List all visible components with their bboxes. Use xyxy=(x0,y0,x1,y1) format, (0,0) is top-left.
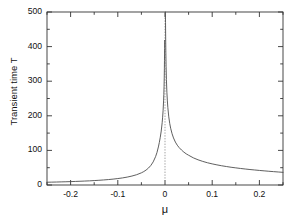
x-axis-label: μ xyxy=(17,203,297,215)
series-line-transient-time-left-branch xyxy=(47,40,165,182)
y-tick-label: 200 xyxy=(1,110,42,120)
series-line-transient-time-right-branch xyxy=(165,12,283,172)
x-tick-label: -0.1 xyxy=(98,189,138,199)
y-tick-label: 100 xyxy=(1,144,42,154)
y-tick-label: 500 xyxy=(1,6,42,16)
x-tick-label: 0.2 xyxy=(239,189,279,199)
x-tick-label: 0.1 xyxy=(192,189,232,199)
y-tick-label: 0 xyxy=(1,179,42,189)
chart-figure: Transient time T μ 0100200300400500-0.2-… xyxy=(0,0,297,222)
x-tick-label: 0 xyxy=(145,189,185,199)
y-tick-label: 400 xyxy=(1,41,42,51)
y-axis-label-container: Transient time T xyxy=(0,0,20,190)
y-tick-label: 300 xyxy=(1,75,42,85)
x-tick-label: -0.2 xyxy=(51,189,91,199)
